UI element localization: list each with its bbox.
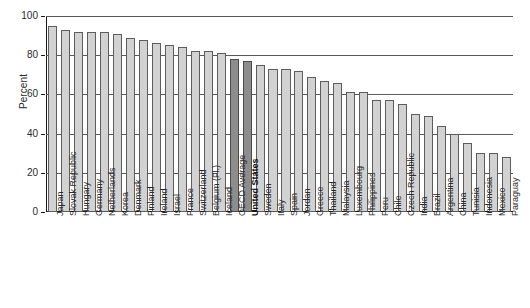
y-tick-mark-100 — [41, 16, 45, 17]
x-tick-label: Greece — [316, 186, 325, 216]
x-tick-label: Tunisia — [472, 187, 481, 216]
bar — [165, 45, 174, 212]
x-tick-label: Czech Republic — [407, 153, 416, 216]
bar — [48, 26, 57, 212]
x-tick-label: Thailand — [329, 181, 338, 216]
y-tick-label-60: 60 — [10, 88, 38, 99]
x-tick-label: Philippines — [368, 172, 377, 216]
x-tick-label: Luxembourg — [355, 166, 364, 216]
y-tick-mark-20 — [41, 173, 45, 174]
x-tick-label: Slovak Republic — [69, 151, 78, 216]
x-tick-label: India — [420, 196, 429, 216]
y-tick-mark-0 — [41, 212, 45, 213]
x-tick-label: Switzerland — [199, 169, 208, 216]
x-tick-label: Indonesia — [485, 177, 494, 216]
x-tick-label: Hungary — [82, 182, 91, 216]
x-tick-label: Jordan — [303, 188, 312, 216]
y-tick-label-100: 100 — [10, 10, 38, 21]
x-tick-label: Italy — [277, 199, 286, 216]
y-tick-mark-60 — [41, 94, 45, 95]
x-tick-label: Germany — [95, 179, 104, 216]
y-tick-label-0: 0 — [10, 206, 38, 217]
x-tick-label: Mexico — [498, 187, 507, 216]
x-tick-label: Ireland — [160, 188, 169, 216]
y-tick-mark-80 — [41, 55, 45, 56]
x-tick-label: Malaysia — [342, 180, 351, 216]
x-tick-label: France — [186, 188, 195, 216]
y-tick-label-40: 40 — [10, 128, 38, 139]
x-tick-label: Paraguay — [511, 177, 520, 216]
x-tick-label: Argentina — [446, 177, 455, 216]
x-tick-label: Korea — [121, 192, 130, 216]
x-tick-label: OECD Average — [238, 155, 247, 216]
bar — [281, 69, 290, 212]
y-tick-label-80: 80 — [10, 49, 38, 60]
x-tick-label: China — [459, 192, 468, 216]
x-tick-label: Iceland — [225, 187, 234, 216]
x-tick-label: Spain — [290, 193, 299, 216]
x-axis-category-labels: JapanSlovak RepublicHungaryGermanyNether… — [46, 214, 513, 308]
x-tick-label: Chile — [394, 195, 403, 216]
y-tick-label-20: 20 — [10, 167, 38, 178]
x-tick-label: Brazil — [433, 193, 442, 216]
x-tick-label: Denmark — [134, 179, 143, 216]
y-tick-mark-40 — [41, 134, 45, 135]
bar-chart: Percent 020406080100 JapanSlovak Republi… — [0, 0, 530, 308]
x-tick-label: Japan — [56, 191, 65, 216]
x-tick-label: Israel — [173, 194, 182, 216]
x-tick-label: Peru — [381, 197, 390, 216]
x-tick-label: Finland — [147, 186, 156, 216]
x-tick-label: Netherlands — [108, 167, 117, 216]
x-tick-label: United States — [251, 158, 260, 216]
x-tick-label: Belgium (Fl.) — [212, 165, 221, 216]
x-tick-label: Sweden — [264, 183, 273, 216]
